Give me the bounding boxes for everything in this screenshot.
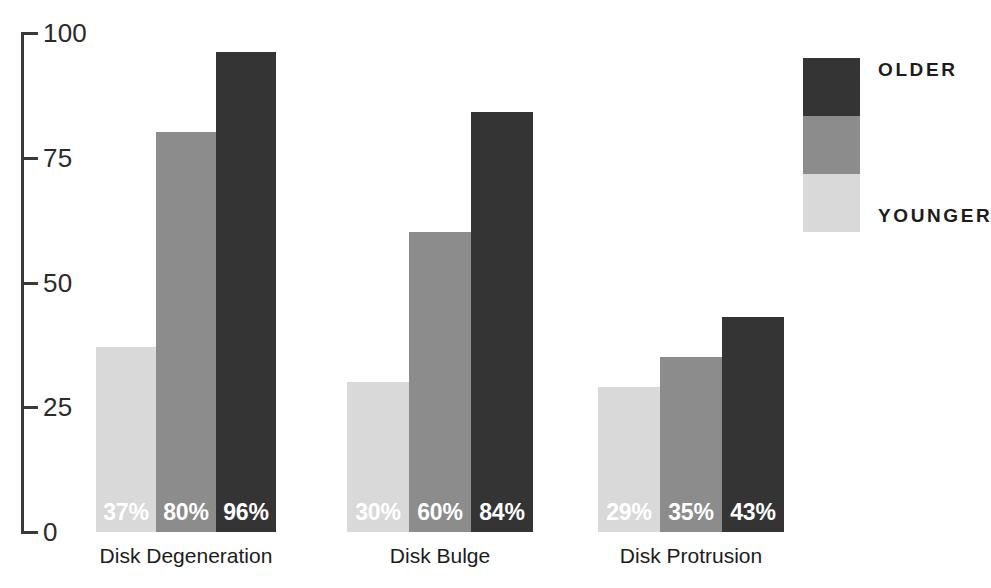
category-label: Disk Bulge <box>340 545 540 566</box>
legend-label-older: OLDER <box>878 60 958 79</box>
category-label: Disk Protrusion <box>591 545 791 566</box>
legend-swatch-younger <box>803 174 860 232</box>
bar-chart: 1007550250 37%80%96%30%60%84%29%35%43% D… <box>0 0 991 588</box>
legend-swatch-older <box>803 58 860 116</box>
legend-swatch-middle <box>803 116 860 174</box>
legend-label-younger: YOUNGER <box>878 206 991 225</box>
category-label: Disk Degeneration <box>86 545 286 566</box>
